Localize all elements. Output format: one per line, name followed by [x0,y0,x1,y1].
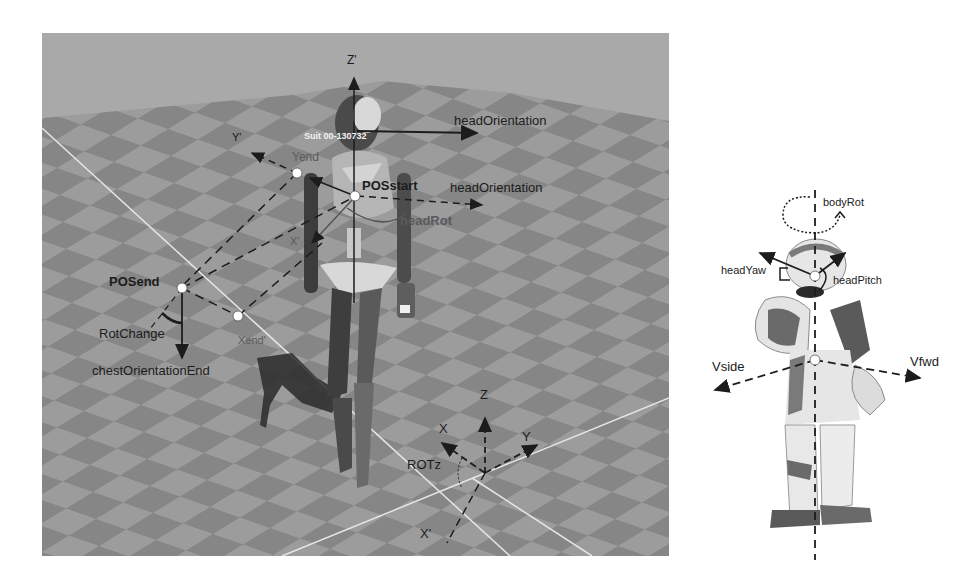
y-end-label: Yend [292,151,319,163]
y-axis-label: Y [522,430,531,443]
pos-end-point [177,283,187,293]
x-prime-upper-label: X' [290,236,299,247]
pos-end-label: POSend [109,275,160,288]
y-prime-axis-label: Y' [232,132,241,143]
head-orientation-label-mid: headOrientation [450,181,543,194]
x-end-label: Xend' [238,335,266,346]
head-rot-label: headRot [400,214,452,227]
rot-z-label: ROTz [407,458,441,471]
v-fwd-label: Vfwd [910,355,939,368]
head-joint-point [810,271,820,281]
z-axis-label: Z [480,388,488,401]
yend-point [292,168,302,178]
x-prime-lower-label: X' [420,527,431,540]
chest-orientation-end-label: chestOrientationEnd [92,364,210,377]
rot-change-label: RotChange [99,327,165,340]
suit-id-label: Suit 00-130732 [304,132,367,141]
xend-point [233,311,243,321]
simulation-scene [42,33,669,556]
z-prime-axis-label: Z' [347,54,357,66]
head-yaw-label: headYaw [721,265,766,276]
simulation-panel: Suit 00-130732 Z' headOrientation headOr… [42,33,669,556]
head-pitch-label: headPitch [833,275,882,286]
robot-panel: bodyRot headYaw headPitch Vside Vfwd [690,150,950,570]
body-center-point [810,355,820,365]
v-side-label: Vside [712,360,745,373]
pos-start-point [350,191,360,201]
body-rot-label: bodyRot [823,197,864,208]
x-axis-label: X [439,422,448,435]
pos-start-label: POSstart [362,179,418,192]
head-orientation-label-top: headOrientation [454,114,547,127]
